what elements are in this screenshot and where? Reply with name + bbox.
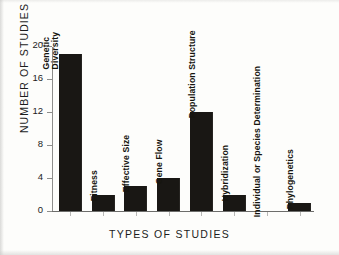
y-axis-tick-label: 0 <box>38 204 43 215</box>
y-axis-tick-label: 4 <box>38 171 43 182</box>
y-axis-tick-label: 8 <box>38 138 43 149</box>
x-axis-tick <box>234 212 235 216</box>
x-axis-tick <box>300 212 301 216</box>
bar-category-label: Population Structure <box>188 30 197 118</box>
scan-edge-bottom <box>0 250 339 255</box>
x-axis-tick <box>169 212 170 216</box>
bar[interactable] <box>190 112 213 211</box>
x-axis-title: TYPES OF STUDIES <box>0 228 339 240</box>
bar-category-label: Effective Size <box>122 135 131 193</box>
y-axis-tick: 8 <box>47 145 52 146</box>
bar-chart-figure: NUMBER OF STUDIES 048121620 Genetic Dive… <box>0 0 339 255</box>
scan-edge-left <box>0 0 4 255</box>
x-axis-tick <box>70 212 71 216</box>
y-axis-tick-label: 16 <box>32 72 43 83</box>
y-axis-tick: 4 <box>47 178 52 179</box>
bar[interactable] <box>59 54 82 211</box>
y-axis-title: NUMBER OF STUDIES <box>18 0 30 148</box>
bar-category-label: Phylogenetics <box>286 149 295 209</box>
plot-area: 048121620 Genetic DiversityFitnessEffect… <box>52 47 314 212</box>
bar-category-label: Fitness <box>89 170 98 201</box>
y-axis-tick: 0 <box>47 211 52 212</box>
y-axis-tick: 16 <box>47 79 52 80</box>
x-axis-tick <box>267 212 268 216</box>
x-axis-tick <box>201 212 202 216</box>
bar-category-label: Individual or Species Determination <box>253 66 262 217</box>
bar-category-label: Hybridization <box>220 144 229 200</box>
y-axis-line <box>52 47 53 212</box>
scan-edge-top <box>0 0 339 3</box>
x-axis-tick <box>103 212 104 216</box>
y-axis-tick-label: 12 <box>32 105 43 116</box>
bar-category-label: Genetic Diversity <box>42 6 60 70</box>
bar-category-label: Gene Flow <box>155 139 164 184</box>
x-axis-tick <box>136 212 137 216</box>
y-axis-tick: 12 <box>47 112 52 113</box>
